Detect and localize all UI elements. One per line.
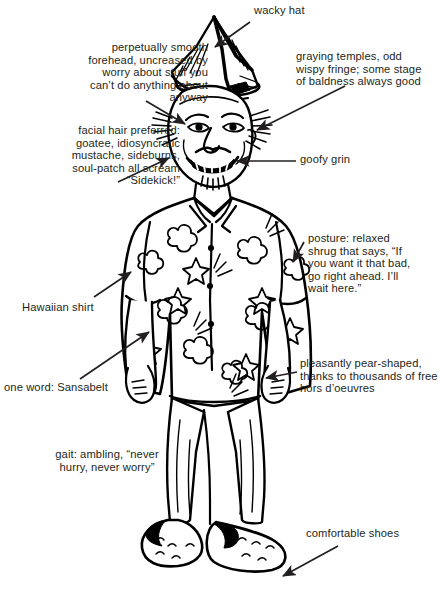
illustration-page: wacky hat perpetually smooth forehead, u… (0, 0, 438, 601)
callout-graying-temples: graying temples, odd wispy fringe; some … (296, 50, 438, 88)
callout-sansabelt: one word: Sansabelt (4, 381, 144, 394)
callout-goofy-grin: goofy grin (300, 153, 420, 166)
callout-forehead: perpetually smooth forehead, uncreased b… (28, 41, 208, 104)
callout-wacky-hat: wacky hat (254, 4, 374, 17)
callout-comfortable-shoes: comfortable shoes (306, 527, 432, 540)
callout-gait: gait: ambling, “never hurry, never worry… (32, 448, 182, 473)
callout-posture: posture: relaxed shrug that says, “If yo… (308, 232, 436, 295)
callout-pear-shaped: pleasantly pear-shaped, thanks to thousa… (300, 357, 438, 395)
callout-facial-hair: facial hair preferred: goatee, idiosyncr… (4, 124, 180, 187)
callout-hawaiian-shirt: Hawaiian shirt (22, 301, 142, 314)
